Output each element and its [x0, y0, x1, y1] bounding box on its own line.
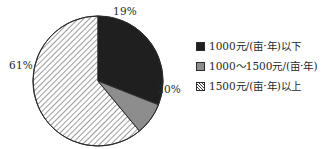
legend-label-1500-and-above: 1500元/(亩·年)以上 — [209, 80, 301, 93]
pie-chart-plot-area: 19% 20% 61% — [0, 0, 190, 149]
legend-swatch-hatch-icon — [196, 82, 205, 91]
pie-label-19-percent: 19% — [113, 5, 137, 17]
legend-item-1500-and-above: 1500元/(亩·年)以上 — [196, 76, 330, 96]
chart-legend: 1000元/(亩·年)以下 1000～1500元/(亩·年) 1500元/(亩·… — [196, 36, 330, 96]
pie-label-61-percent: 61% — [9, 59, 33, 71]
pie-chart-figure: 19% 20% 61% 1000元/(亩·年)以下 1000～1500元/(亩·… — [0, 0, 330, 149]
pie-label-20-percent: 20% — [157, 83, 181, 95]
pie-chart-svg — [0, 0, 190, 149]
legend-swatch-solid-dark-icon — [196, 42, 205, 51]
legend-label-1000-to-1500: 1000～1500元/(亩·年) — [209, 60, 318, 73]
legend-label-below-1000: 1000元/(亩·年)以下 — [209, 40, 301, 53]
legend-item-1000-to-1500: 1000～1500元/(亩·年) — [196, 56, 330, 76]
legend-item-below-1000: 1000元/(亩·年)以下 — [196, 36, 330, 56]
legend-swatch-solid-gray-icon — [196, 62, 205, 71]
